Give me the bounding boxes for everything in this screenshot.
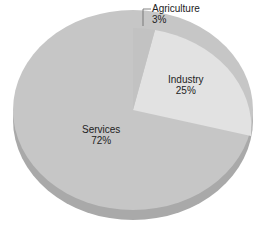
label-agriculture-name: Agriculture bbox=[152, 3, 200, 14]
label-services: Services 72% bbox=[82, 124, 120, 146]
label-services-name: Services bbox=[82, 124, 120, 135]
label-industry-name: Industry bbox=[168, 74, 204, 85]
label-agriculture: Agriculture 3% bbox=[152, 3, 200, 25]
label-services-pct: 72% bbox=[82, 135, 120, 146]
pie-chart bbox=[0, 0, 257, 230]
label-industry: Industry 25% bbox=[168, 74, 204, 96]
label-agriculture-pct: 3% bbox=[152, 14, 200, 25]
label-industry-pct: 25% bbox=[168, 85, 204, 96]
